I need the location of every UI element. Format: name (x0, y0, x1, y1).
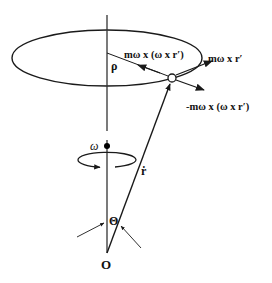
angle-arrow-left (77, 223, 104, 237)
centrifugal-label: -mω x (ω x r′) (186, 101, 250, 113)
centripetal-arrow (138, 65, 160, 73)
radius-label: ρ (111, 59, 117, 73)
omega-dot (104, 143, 110, 149)
tangential-arrow (176, 61, 212, 75)
particle-circle (168, 74, 176, 82)
omega-label: ω (90, 139, 98, 153)
centripetal-label: mω x (ω x r′) (124, 49, 184, 61)
tangential-label: mω x r′ (208, 53, 243, 64)
angle-label: Θ (109, 214, 118, 228)
position-vector-label: ṙ (141, 164, 147, 178)
centrifugal-arrow (176, 80, 204, 90)
rotating-frame-diagram: mω x (ω x r′) mω x r′ -mω x (ω x r′) ρ ω… (0, 0, 272, 283)
angle-arrow-right (121, 226, 141, 248)
origin-label: O (101, 257, 111, 272)
